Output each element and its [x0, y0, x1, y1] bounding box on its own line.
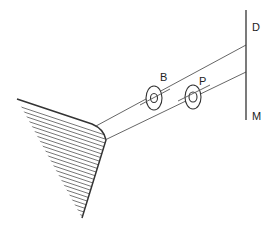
optics-diagram: [0, 0, 275, 230]
label-d: D: [252, 22, 260, 33]
label-m: M: [252, 111, 261, 122]
label-b: B: [160, 72, 167, 83]
upper-beam-line: [96, 45, 246, 126]
ring-p-icon: [185, 85, 201, 109]
wedge-hatching: [0, 100, 120, 228]
label-p: P: [199, 76, 206, 87]
lower-beam-line: [105, 72, 246, 140]
